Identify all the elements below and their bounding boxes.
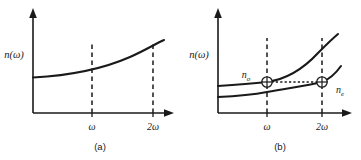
x-tick-label-omega-b: ω	[263, 121, 270, 132]
marker-n-e	[316, 76, 327, 87]
x-axis-b	[218, 109, 352, 117]
dispersion-figure: n(ω) ω 2ω (a)	[0, 0, 361, 160]
marker-n-o	[261, 76, 272, 87]
y-axis-a	[29, 8, 37, 113]
x-tick-label-2omega-a: 2ω	[147, 121, 159, 132]
curve-label-n-e-sub: e	[341, 90, 344, 98]
dispersion-curve-a	[33, 40, 164, 78]
x-tick-label-2omega-b: 2ω	[316, 121, 328, 132]
y-axis-label-a: n(ω)	[4, 49, 24, 61]
panel-a: n(ω) ω 2ω (a)	[0, 0, 180, 160]
x-tick-label-omega-a: ω	[88, 121, 95, 132]
panel-a-caption: (a)	[94, 141, 106, 152]
panel-b-caption: (b)	[274, 141, 286, 152]
panel-b-plot: n(ω) no ne ω 2ω (b)	[180, 0, 361, 160]
curve-label-n-o-sub: o	[247, 75, 251, 83]
curve-label-n-o: no	[242, 69, 251, 83]
curve-label-n-e: ne	[336, 84, 344, 98]
panel-a-plot: n(ω) ω 2ω (a)	[0, 0, 180, 160]
panel-b: n(ω) no ne ω 2ω (b)	[180, 0, 361, 160]
y-axis-label-b: n(ω)	[189, 49, 209, 61]
